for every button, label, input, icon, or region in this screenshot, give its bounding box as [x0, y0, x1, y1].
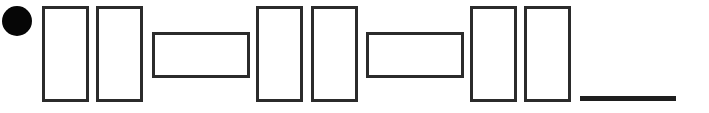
wide-rect-1 — [152, 32, 250, 78]
tall-rect-5 — [470, 6, 517, 102]
tall-rect-4 — [311, 6, 358, 102]
tall-rect-6 — [524, 6, 571, 102]
tall-rect-3 — [256, 6, 303, 102]
tall-rect-2 — [96, 6, 143, 102]
diagram-canvas — [0, 0, 709, 113]
wide-rect-2 — [366, 32, 464, 78]
tall-rect-1 — [42, 6, 89, 102]
baseline-rule — [580, 96, 676, 101]
bullet-circle — [2, 6, 32, 36]
